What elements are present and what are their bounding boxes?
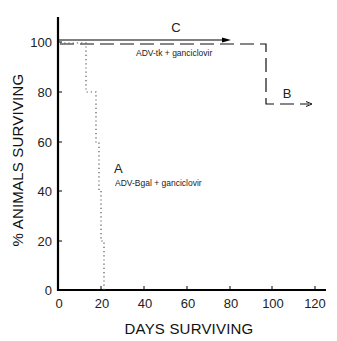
x-tick-label-80: 80 (224, 296, 238, 311)
x-tick-label-100: 100 (262, 296, 284, 311)
x-tick-label-0: 0 (55, 296, 62, 311)
y-axis-title: % ANIMALS SURVIVING (9, 74, 26, 247)
y-tick-label-40: 40 (38, 184, 52, 199)
y-tick-label-0: 0 (45, 283, 52, 298)
series-b-label: B (283, 86, 292, 101)
y-tick-label-60: 60 (38, 135, 52, 150)
y-tick-label-20: 20 (38, 234, 52, 249)
x-axis-title: DAYS SURVIVING (125, 320, 254, 337)
y-tick-label-100: 100 (30, 35, 52, 50)
survival-chart: 0 20 40 60 80 100 0 20 40 60 80 100 120 … (0, 0, 337, 341)
series-a-label: A (114, 161, 123, 176)
series-b-description: ADV-tk + ganciclovir (136, 48, 212, 58)
x-tick-label-60: 60 (181, 296, 195, 311)
x-tick-label-20: 20 (95, 296, 109, 311)
y-tick-label-80: 80 (38, 85, 52, 100)
series-c-label: C (171, 20, 180, 35)
series-c-line (58, 38, 231, 43)
series-a-line (60, 43, 104, 290)
x-tick-label-40: 40 (138, 296, 152, 311)
series-a-description: ADV-Bgal + ganciclovir (115, 178, 202, 188)
x-tick-label-120: 120 (304, 296, 326, 311)
series-c-arrowhead (222, 38, 231, 43)
